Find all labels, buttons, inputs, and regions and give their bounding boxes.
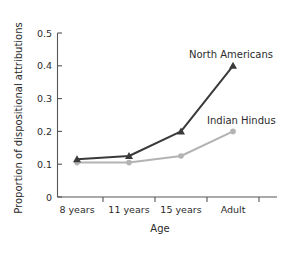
y-tick-label-0.3: 0.3 [37, 93, 52, 104]
series-line-north-americans [77, 66, 233, 160]
data-point-indian-hindus-15-years [178, 153, 184, 159]
chart-figure: Proportion of dispositional attributions… [0, 0, 300, 254]
y-tick-label-0.4: 0.4 [37, 60, 52, 71]
series-north-americans [73, 62, 237, 163]
y-tick-label-0.2: 0.2 [37, 126, 52, 137]
y-tick-label-0: 0 [46, 192, 52, 203]
y-tick-label-0.5: 0.5 [37, 28, 52, 39]
x-tick-label-8-years: 8 years [59, 204, 94, 215]
series-indian-hindus [74, 129, 236, 166]
data-point-indian-hindus-adult [230, 129, 236, 135]
x-axis-ticks [103, 197, 259, 202]
x-tick-label-11-years: 11 years [108, 204, 149, 215]
y-tick-label-0.1: 0.1 [37, 159, 52, 170]
y-axis-ticks [58, 33, 63, 197]
x-tick-label-15-years: 15 years [160, 204, 201, 215]
series-label-north-americans: North Americans [189, 49, 273, 60]
x-axis-title: Age [150, 223, 169, 234]
x-tick-label-adult: Adult [221, 204, 246, 215]
y-axis-title: Proportion of dispositional attributions [13, 22, 24, 214]
data-point-indian-hindus-11-years [126, 160, 132, 166]
line-chart: Proportion of dispositional attributions… [0, 0, 300, 254]
series-label-indian-hindus: Indian Hindus [207, 115, 276, 126]
data-point-north-americans-adult [229, 62, 237, 69]
